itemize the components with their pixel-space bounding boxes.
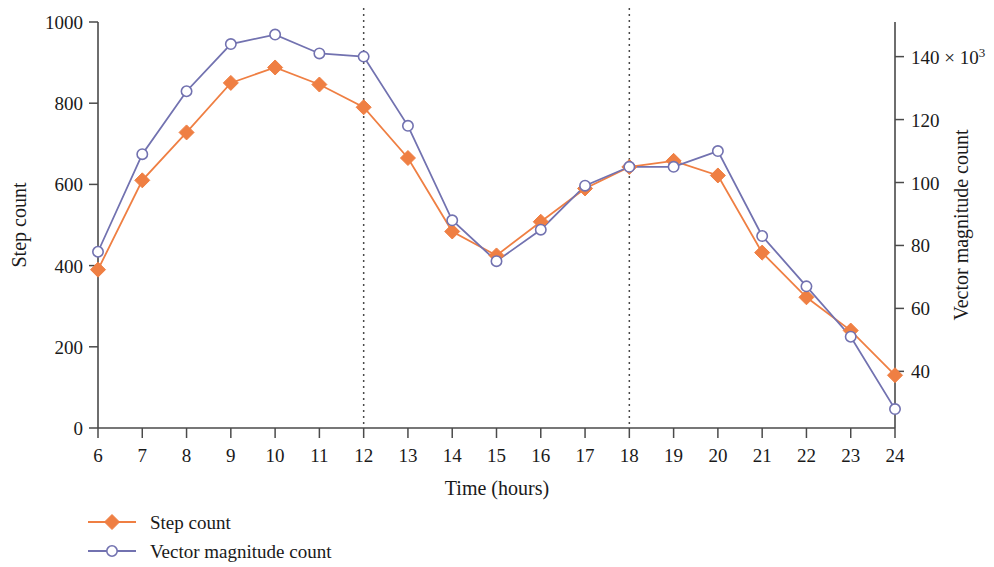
data-point-marker (890, 404, 900, 414)
series-step-count (98, 67, 895, 375)
x-tick-label: 17 (576, 445, 595, 466)
series-layer (91, 29, 903, 414)
legend-label: Step count (150, 512, 231, 533)
x-tick-label: 24 (886, 445, 906, 466)
x-tick-label: 18 (620, 445, 639, 466)
data-point-marker (536, 225, 546, 235)
annotation-vlines (364, 8, 630, 428)
x-axis-ticks (98, 428, 895, 438)
data-point-marker (447, 215, 457, 225)
y2-axis-title: Vector magnitude count (950, 129, 973, 320)
y-tick-label: 1000 (45, 12, 83, 33)
data-point-marker (137, 149, 147, 159)
data-point-marker (181, 86, 191, 96)
line-chart-figure: 02004006008001000 406080100120140 × 103 … (0, 0, 994, 567)
data-point-marker (624, 162, 634, 172)
data-point-marker (668, 162, 678, 172)
y2-tick-label: 100 (911, 173, 940, 194)
series-vector-magnitude-count (98, 35, 895, 410)
x-tick-label: 7 (138, 445, 148, 466)
x-tick-label: 20 (708, 445, 727, 466)
legend-item: Vector magnitude count (88, 541, 332, 562)
x-tick-label: 8 (182, 445, 192, 466)
y-tick-label: 800 (55, 93, 84, 114)
x-tick-label: 10 (266, 445, 285, 466)
data-point-marker (403, 121, 413, 131)
x-tick-label: 12 (354, 445, 373, 466)
y-tick-label: 400 (55, 256, 84, 277)
data-point-marker (580, 180, 590, 190)
x-tick-label: 21 (753, 445, 772, 466)
x-axis-tick-labels: 6789101112131415161718192021222324 (93, 445, 905, 466)
y2-axis-ticks (895, 57, 904, 372)
data-point-marker (314, 48, 324, 58)
data-point-marker (757, 231, 767, 241)
data-point-marker (846, 332, 856, 342)
y2-tick-label: 120 (911, 110, 940, 131)
y-axis-ticks (89, 22, 98, 428)
data-point-marker (710, 168, 725, 183)
legend-marker-filled-diamond-icon (105, 515, 120, 530)
legend-item: Step count (88, 512, 231, 533)
x-axis-title: Time (hours) (445, 477, 549, 500)
y-tick-label: 200 (55, 337, 84, 358)
data-point-marker (93, 247, 103, 257)
data-point-marker (491, 256, 501, 266)
data-point-marker (713, 146, 723, 156)
data-point-marker (270, 29, 280, 39)
x-tick-label: 23 (841, 445, 860, 466)
x-tick-label: 14 (443, 445, 463, 466)
x-tick-label: 11 (310, 445, 328, 466)
y-axis-title: Step count (8, 182, 31, 267)
markers-step-count (91, 60, 903, 383)
x-tick-label: 15 (487, 445, 506, 466)
y2-tick-label: 60 (911, 298, 930, 319)
y2-tick-label: 80 (911, 235, 930, 256)
x-tick-label: 19 (664, 445, 683, 466)
y-axis-tick-labels: 02004006008001000 (45, 12, 83, 439)
y-tick-label: 600 (55, 174, 84, 195)
data-point-marker (358, 51, 368, 61)
chart-svg: 02004006008001000 406080100120140 × 103 … (0, 0, 994, 567)
y2-axis-tick-labels: 406080100120140 × 103 (911, 45, 985, 383)
data-point-marker (226, 39, 236, 49)
data-point-marker (312, 77, 327, 92)
x-tick-label: 22 (797, 445, 816, 466)
x-tick-label: 16 (531, 445, 550, 466)
x-tick-label: 9 (226, 445, 236, 466)
legend-label: Vector magnitude count (150, 541, 332, 562)
chart-legend: Step countVector magnitude count (88, 512, 332, 562)
legend-marker-open-circle-icon (107, 546, 117, 556)
markers-vector-magnitude-count (93, 29, 900, 414)
series-line (98, 35, 895, 410)
series-line (98, 67, 895, 375)
y-tick-label: 0 (74, 418, 84, 439)
x-tick-label: 13 (398, 445, 417, 466)
data-point-marker (91, 262, 106, 277)
x-tick-label: 6 (93, 445, 103, 466)
data-point-marker (801, 281, 811, 291)
y2-tick-label: 140 × 103 (911, 45, 985, 68)
y2-tick-label: 40 (911, 361, 930, 382)
data-point-marker (268, 60, 283, 75)
